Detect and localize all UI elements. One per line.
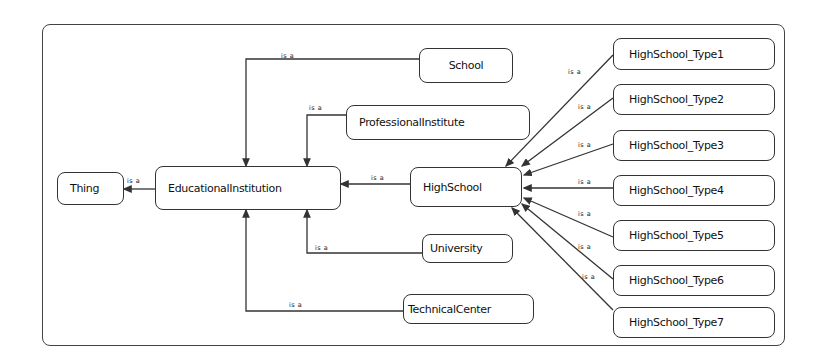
edge-label: is a bbox=[371, 174, 384, 182]
edge-label: is a bbox=[309, 104, 322, 112]
edge-label: is a bbox=[578, 103, 591, 111]
edge-label: is a bbox=[578, 178, 591, 186]
node-label: TechnicalCenter bbox=[408, 303, 491, 316]
node-high-school[interactable]: HighSchool bbox=[410, 167, 522, 207]
node-high-school-type3[interactable]: HighSchool_Type3 bbox=[613, 130, 775, 161]
node-high-school-type6[interactable]: HighSchool_Type6 bbox=[613, 265, 775, 296]
edge-label: is a bbox=[582, 273, 595, 281]
node-high-school-type2[interactable]: HighSchool_Type2 bbox=[613, 84, 775, 115]
node-high-school-type4[interactable]: HighSchool_Type4 bbox=[613, 175, 775, 206]
edge-label: is a bbox=[281, 52, 294, 60]
node-label: Thing bbox=[70, 182, 99, 195]
node-label: HighSchool_Type3 bbox=[629, 139, 724, 152]
edge-label: is a bbox=[289, 301, 302, 309]
edge-t5-hs bbox=[524, 198, 613, 237]
node-high-school-type5[interactable]: HighSchool_Type5 bbox=[613, 220, 775, 251]
edge-t2-hs bbox=[522, 98, 613, 166]
node-label: HighSchool_Type7 bbox=[629, 316, 724, 329]
node-university[interactable]: University bbox=[422, 234, 513, 263]
node-high-school-type1[interactable]: HighSchool_Type1 bbox=[613, 38, 775, 70]
node-label: HighSchool_Type2 bbox=[629, 93, 724, 106]
node-label: HighSchool bbox=[423, 181, 482, 194]
edge-label: is a bbox=[568, 68, 581, 76]
edge-prof-edu bbox=[307, 115, 346, 166]
node-school[interactable]: School bbox=[419, 48, 513, 83]
edge-label: is a bbox=[127, 177, 140, 185]
node-professional-institute[interactable]: ProfessionalInstitute bbox=[346, 105, 530, 140]
edge-tech-edu bbox=[246, 210, 403, 311]
node-label: HighSchool_Type5 bbox=[629, 229, 724, 242]
edge-label: is a bbox=[578, 243, 591, 251]
node-label: ProfessionalInstitute bbox=[359, 116, 465, 129]
edge-t6-hs bbox=[522, 204, 613, 279]
node-label: HighSchool_Type1 bbox=[629, 48, 724, 61]
node-technical-center[interactable]: TechnicalCenter bbox=[403, 294, 534, 324]
node-label: EducationalInstitution bbox=[168, 182, 282, 195]
node-high-school-type7[interactable]: HighSchool_Type7 bbox=[613, 307, 775, 338]
edge-label: is a bbox=[578, 141, 591, 149]
edge-label: is a bbox=[315, 244, 328, 252]
node-label: University bbox=[430, 242, 483, 255]
edge-label: is a bbox=[578, 210, 591, 218]
edge-t3-hs bbox=[524, 144, 613, 175]
node-label: School bbox=[449, 59, 484, 72]
node-educational-institution[interactable]: EducationalInstitution bbox=[155, 166, 341, 210]
node-thing[interactable]: Thing bbox=[57, 172, 124, 205]
node-label: HighSchool_Type6 bbox=[629, 274, 724, 287]
node-label: HighSchool_Type4 bbox=[629, 184, 724, 197]
